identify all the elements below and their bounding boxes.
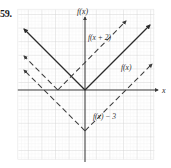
label-f-x-plus-2: f(x + 2) (88, 33, 111, 42)
graph-figure: f(x) x f(x + 2) f(x) f(x) − 3 (0, 0, 171, 168)
x-axis-label: x (161, 86, 166, 95)
label-f-x-minus-3: f(x) − 3 (93, 112, 116, 121)
y-axis-label: f(x) (77, 7, 88, 16)
coordinate-plane-svg: f(x) x f(x + 2) f(x) f(x) − 3 (0, 0, 171, 168)
label-f-x: f(x) (121, 63, 132, 72)
